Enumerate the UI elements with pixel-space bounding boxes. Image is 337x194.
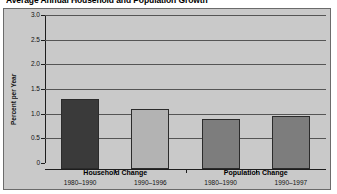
bar	[131, 109, 169, 169]
chart-figure: Average Annual Household and Population …	[0, 0, 337, 194]
gridline	[45, 40, 326, 41]
bar	[272, 116, 310, 169]
plot-area: 00.51.01.52.02.53.0	[45, 15, 326, 170]
y-tick-label: 0.5	[23, 134, 40, 141]
period-label: 1990–1996	[110, 179, 190, 186]
y-tick-mark	[41, 138, 45, 139]
y-tick-mark	[41, 89, 45, 90]
gridline	[45, 15, 326, 16]
y-tick-label: 3.0	[23, 11, 40, 18]
gridline	[45, 89, 326, 90]
y-tick-label: 2.0	[23, 60, 40, 67]
y-tick-label: 1.5	[23, 85, 40, 92]
group-label: Population Change	[186, 169, 326, 176]
y-tick-label: 2.5	[23, 36, 40, 43]
chart-title: Average Annual Household and Population …	[6, 0, 326, 6]
y-tick-label: 0	[23, 159, 40, 166]
y-tick-label: 1.0	[23, 110, 40, 117]
y-tick-mark	[41, 64, 45, 65]
y-tick-mark	[41, 15, 45, 16]
gridline	[45, 64, 326, 65]
chart-panel: Percent per Year 00.51.01.52.02.53.0 Hou…	[3, 8, 331, 190]
y-tick-mark	[41, 114, 45, 115]
y-tick-mark	[41, 163, 45, 164]
y-tick-mark	[41, 40, 45, 41]
group-label: Household Change	[45, 169, 185, 176]
y-axis-label: Percent per Year	[10, 59, 21, 139]
period-label: 1980–1990	[181, 179, 261, 186]
period-label: 1990–1997	[251, 179, 331, 186]
bar	[202, 119, 240, 169]
period-label: 1980–1990	[40, 179, 120, 186]
bar	[61, 99, 99, 169]
